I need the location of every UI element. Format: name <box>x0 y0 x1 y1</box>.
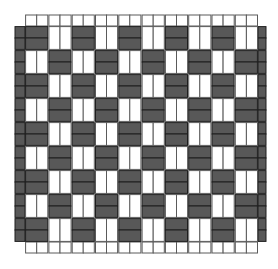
weft-strip <box>72 219 94 230</box>
weft-strip <box>189 147 211 158</box>
warp-strip <box>223 147 234 170</box>
weft-strip <box>235 206 257 217</box>
weft-strip-right <box>258 75 266 86</box>
weft-strip <box>142 206 164 217</box>
warp-strip-bottom <box>177 242 188 253</box>
warp-strip <box>130 51 141 74</box>
weft-strip <box>96 158 118 169</box>
weft-strip <box>96 62 118 73</box>
warp-strip <box>96 219 107 242</box>
weft-strip-right <box>258 230 266 241</box>
weft-strip-right <box>258 206 266 217</box>
weft-strip-left <box>15 147 25 158</box>
warp-strip-bottom <box>83 242 94 253</box>
weft-strip <box>189 158 211 169</box>
warp-strip <box>107 75 118 98</box>
warp-strip <box>235 75 246 98</box>
weft-strip <box>165 182 187 193</box>
weft-strip-right <box>258 38 266 49</box>
weft-strip <box>96 99 118 110</box>
warp-strip <box>177 147 188 170</box>
warp-strip-top <box>200 15 211 26</box>
warp-strip <box>142 75 153 98</box>
warp-strip <box>60 27 71 50</box>
warp-strip-bottom <box>212 242 223 253</box>
warp-strip <box>165 99 176 122</box>
warp-strip <box>119 51 130 74</box>
warp-strip <box>49 123 60 146</box>
weft-strip <box>142 51 164 62</box>
weft-strip-left <box>15 99 25 110</box>
warp-strip-bottom <box>223 242 234 253</box>
weft-strip-left <box>15 230 25 241</box>
weft-strip <box>119 230 141 241</box>
warp-strip <box>130 147 141 170</box>
weft-strip <box>212 171 234 182</box>
weft-strip-right <box>258 86 266 97</box>
weft-strip <box>26 27 48 38</box>
warp-strip <box>26 99 37 122</box>
weft-strip <box>142 195 164 206</box>
warp-strip-top <box>130 15 141 26</box>
weft-strip-right <box>258 99 266 110</box>
warp-strip <box>142 219 153 242</box>
weft-strip <box>189 110 211 121</box>
weft-strip <box>119 134 141 145</box>
weft-strip <box>165 38 187 49</box>
weft-strip-left <box>15 123 25 134</box>
weft-strip <box>72 38 94 49</box>
weft-strip <box>119 219 141 230</box>
weft-strip <box>96 51 118 62</box>
weft-strip <box>189 195 211 206</box>
warp-strip-top <box>223 15 234 26</box>
warp-strip <box>246 171 257 194</box>
warp-strip <box>49 27 60 50</box>
weft-strip <box>26 182 48 193</box>
weft-strip-right <box>258 62 266 73</box>
warp-strip <box>142 123 153 146</box>
warp-strip <box>246 75 257 98</box>
weft-strip-left <box>15 38 25 49</box>
weft-strip <box>165 219 187 230</box>
warp-strip-top <box>165 15 176 26</box>
warp-strip <box>96 75 107 98</box>
warp-strip-top <box>119 15 130 26</box>
warp-strip <box>83 147 94 170</box>
weft-strip <box>212 230 234 241</box>
warp-strip-bottom <box>119 242 130 253</box>
weft-strip <box>165 230 187 241</box>
warp-strip <box>37 195 48 218</box>
warp-strip <box>37 51 48 74</box>
weft-strip <box>212 86 234 97</box>
warp-strip-top <box>60 15 71 26</box>
weft-strip-left <box>15 171 25 182</box>
weft-strip <box>165 86 187 97</box>
weft-strip <box>142 158 164 169</box>
weft-strip <box>96 147 118 158</box>
weft-strip-left <box>15 206 25 217</box>
warp-strip <box>223 51 234 74</box>
warp-strip <box>189 27 200 50</box>
warp-strip <box>107 219 118 242</box>
warp-strip <box>212 51 223 74</box>
warp-strip-bottom <box>96 242 107 253</box>
warp-strip <box>200 171 211 194</box>
warp-strip <box>177 51 188 74</box>
warp-strip-top <box>107 15 118 26</box>
weft-strip-left <box>15 75 25 86</box>
weft-strip <box>212 27 234 38</box>
weft-strip <box>235 99 257 110</box>
weft-strip <box>72 86 94 97</box>
warp-strip-top <box>235 15 246 26</box>
weft-strip-left <box>15 195 25 206</box>
warp-strip <box>223 99 234 122</box>
weft-strip-right <box>258 158 266 169</box>
warp-strip <box>189 219 200 242</box>
warp-strip <box>212 99 223 122</box>
warp-strip <box>246 219 257 242</box>
warp-strip <box>107 123 118 146</box>
warp-strip-top <box>142 15 153 26</box>
weft-strip <box>165 27 187 38</box>
weft-strip-left <box>15 110 25 121</box>
warp-strip <box>189 123 200 146</box>
